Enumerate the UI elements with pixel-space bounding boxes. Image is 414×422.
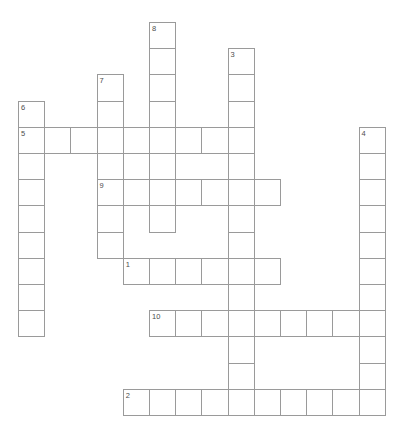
crossword-cell[interactable] <box>228 127 255 154</box>
crossword-cell[interactable] <box>201 258 228 285</box>
crossword-cell[interactable] <box>201 179 228 206</box>
crossword-cell[interactable] <box>18 153 45 180</box>
crossword-cell[interactable] <box>359 205 386 232</box>
crossword-cell[interactable] <box>175 310 202 337</box>
crossword-cell[interactable] <box>175 179 202 206</box>
crossword-cell[interactable] <box>228 363 255 390</box>
cell-number-label: 10 <box>152 312 160 321</box>
crossword-cell[interactable] <box>280 389 307 416</box>
crossword-cell[interactable] <box>18 258 45 285</box>
crossword-cell[interactable] <box>149 389 176 416</box>
crossword-cell[interactable] <box>254 310 281 337</box>
crossword-cell[interactable] <box>228 179 255 206</box>
crossword-cell[interactable] <box>149 101 176 128</box>
crossword-cell[interactable] <box>228 232 255 259</box>
cell-number-label: 2 <box>126 391 130 400</box>
crossword-cell[interactable] <box>97 101 124 128</box>
crossword-cell[interactable] <box>149 179 176 206</box>
crossword-cell[interactable] <box>175 389 202 416</box>
crossword-cell[interactable] <box>359 232 386 259</box>
crossword-cell[interactable] <box>123 127 150 154</box>
crossword-cell[interactable]: 2 <box>123 389 150 416</box>
crossword-cell[interactable]: 5 <box>18 127 45 154</box>
crossword-cell[interactable] <box>359 389 386 416</box>
crossword-grid: 83765491102 <box>0 0 414 422</box>
crossword-cell[interactable] <box>123 179 150 206</box>
crossword-cell[interactable] <box>359 153 386 180</box>
crossword-cell[interactable] <box>254 389 281 416</box>
cell-number-label: 7 <box>100 76 104 85</box>
crossword-cell[interactable] <box>97 153 124 180</box>
crossword-cell[interactable] <box>306 310 333 337</box>
crossword-cell[interactable] <box>149 74 176 101</box>
crossword-cell[interactable] <box>149 153 176 180</box>
crossword-cell[interactable] <box>201 389 228 416</box>
crossword-cell[interactable] <box>97 127 124 154</box>
crossword-cell[interactable]: 8 <box>149 22 176 49</box>
crossword-cell[interactable] <box>18 179 45 206</box>
crossword-cell[interactable] <box>332 310 359 337</box>
crossword-cell[interactable] <box>149 205 176 232</box>
crossword-cell[interactable] <box>359 310 386 337</box>
crossword-cell[interactable] <box>18 284 45 311</box>
crossword-cell[interactable] <box>359 258 386 285</box>
crossword-cell[interactable] <box>228 389 255 416</box>
crossword-cell[interactable]: 1 <box>123 258 150 285</box>
cell-number-label: 8 <box>152 24 156 33</box>
crossword-cell[interactable] <box>228 101 255 128</box>
crossword-cell[interactable]: 3 <box>228 48 255 75</box>
crossword-cell[interactable]: 9 <box>97 179 124 206</box>
crossword-cell[interactable] <box>228 284 255 311</box>
crossword-cell[interactable] <box>201 127 228 154</box>
crossword-cell[interactable] <box>149 127 176 154</box>
cell-number-label: 5 <box>21 129 25 138</box>
crossword-cell[interactable] <box>70 127 97 154</box>
crossword-cell[interactable] <box>332 389 359 416</box>
crossword-cell[interactable] <box>306 389 333 416</box>
cell-number-label: 6 <box>21 103 25 112</box>
crossword-cell[interactable]: 7 <box>97 74 124 101</box>
crossword-cell[interactable] <box>44 127 71 154</box>
crossword-cell[interactable] <box>228 205 255 232</box>
crossword-cell[interactable] <box>97 232 124 259</box>
crossword-cell[interactable] <box>359 363 386 390</box>
crossword-cell[interactable] <box>228 74 255 101</box>
crossword-cell[interactable]: 10 <box>149 310 176 337</box>
crossword-cell[interactable] <box>359 179 386 206</box>
crossword-cell[interactable] <box>228 258 255 285</box>
crossword-cell[interactable] <box>149 48 176 75</box>
cell-number-label: 1 <box>126 260 130 269</box>
crossword-cell[interactable] <box>18 232 45 259</box>
crossword-cell[interactable] <box>149 258 176 285</box>
crossword-cell[interactable] <box>97 205 124 232</box>
crossword-cell[interactable] <box>254 258 281 285</box>
crossword-cell[interactable]: 4 <box>359 127 386 154</box>
crossword-cell[interactable] <box>228 310 255 337</box>
crossword-cell[interactable] <box>18 205 45 232</box>
crossword-cell[interactable] <box>280 310 307 337</box>
crossword-cell[interactable] <box>359 284 386 311</box>
crossword-cell[interactable] <box>359 336 386 363</box>
cell-number-label: 9 <box>100 181 104 190</box>
crossword-cell[interactable] <box>201 310 228 337</box>
crossword-cell[interactable] <box>228 153 255 180</box>
cell-number-label: 4 <box>362 129 366 138</box>
crossword-cell[interactable] <box>228 336 255 363</box>
crossword-cell[interactable] <box>18 310 45 337</box>
crossword-cell[interactable] <box>175 258 202 285</box>
crossword-cell[interactable]: 6 <box>18 101 45 128</box>
cell-number-label: 3 <box>231 50 235 59</box>
crossword-cell[interactable] <box>175 127 202 154</box>
crossword-cell[interactable] <box>254 179 281 206</box>
